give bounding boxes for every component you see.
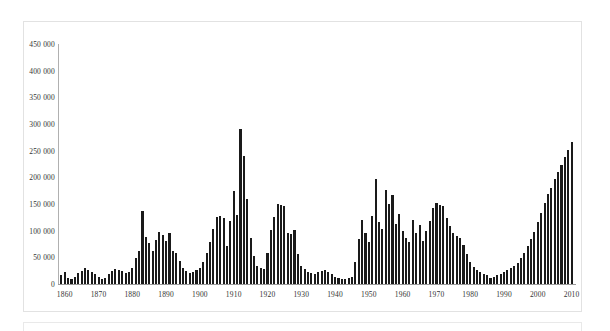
bar	[300, 266, 302, 284]
bar	[118, 270, 120, 284]
y-tick-label: 250 000	[29, 146, 55, 155]
bar	[77, 273, 79, 284]
bar	[128, 272, 130, 284]
bar	[510, 268, 512, 284]
bar	[310, 273, 312, 284]
bar	[236, 215, 238, 284]
bar	[145, 237, 147, 284]
bar	[162, 235, 164, 284]
bar	[520, 258, 522, 284]
x-tick-label: 1860	[57, 290, 73, 299]
bar	[324, 270, 326, 284]
bar	[212, 229, 214, 284]
bar	[189, 273, 191, 284]
bar	[348, 278, 350, 284]
bar	[195, 270, 197, 284]
bar	[219, 216, 221, 284]
bar	[131, 268, 133, 284]
bar	[415, 233, 417, 284]
bar	[506, 270, 508, 284]
bar	[452, 233, 454, 284]
bar	[331, 274, 333, 284]
bar	[81, 271, 83, 284]
bar	[567, 150, 569, 284]
bar	[564, 157, 566, 284]
y-tick-label: 150 000	[29, 200, 55, 209]
bar	[571, 142, 573, 284]
y-tick-label: 0	[51, 280, 55, 289]
bar	[293, 230, 295, 284]
x-tick-label: 1870	[91, 290, 107, 299]
x-tick-label: 1930	[293, 290, 309, 299]
bar	[165, 241, 167, 284]
bar	[432, 208, 434, 284]
bar	[209, 242, 211, 284]
bar	[439, 205, 441, 284]
bar	[344, 279, 346, 284]
bar	[459, 238, 461, 284]
bar	[486, 275, 488, 284]
x-tick-label: 1990	[496, 290, 512, 299]
bar	[337, 278, 339, 284]
bar	[412, 220, 414, 284]
x-tick-label: 1890	[158, 290, 174, 299]
bars-layer	[58, 44, 575, 284]
bar	[354, 262, 356, 284]
bar	[202, 262, 204, 284]
bar	[67, 278, 69, 284]
bar	[391, 195, 393, 284]
x-tick-label: 1970	[429, 290, 445, 299]
bar	[256, 266, 258, 284]
bar	[469, 262, 471, 284]
bar	[273, 217, 275, 284]
bar	[297, 254, 299, 284]
bar	[223, 218, 225, 284]
bar	[557, 172, 559, 284]
bar	[476, 270, 478, 284]
x-tick-label: 1960	[395, 290, 411, 299]
bar	[168, 233, 170, 284]
bar	[533, 232, 535, 284]
bar	[307, 272, 309, 284]
bar	[560, 165, 562, 284]
bar	[304, 269, 306, 284]
bar	[483, 274, 485, 284]
y-tick-label: 450 000	[29, 40, 55, 49]
bar	[544, 203, 546, 284]
bar	[361, 220, 363, 284]
bar	[172, 251, 174, 284]
bar	[554, 179, 556, 284]
bar	[253, 256, 255, 284]
bar	[479, 272, 481, 284]
y-tick-label: 200 000	[29, 173, 55, 182]
x-axis-line	[58, 284, 576, 285]
x-tick-label: 2000	[530, 290, 546, 299]
bar	[523, 253, 525, 284]
bar	[70, 279, 72, 284]
y-tick-label: 100 000	[29, 226, 55, 235]
plot-area	[58, 44, 575, 284]
bar	[185, 271, 187, 284]
bar	[547, 194, 549, 284]
x-tick-label: 1980	[462, 290, 478, 299]
bar	[493, 277, 495, 284]
bar	[64, 272, 66, 284]
bar	[398, 214, 400, 284]
bar	[375, 179, 377, 284]
bar	[371, 216, 373, 284]
bar	[385, 190, 387, 284]
bar	[239, 129, 241, 284]
y-tick-label: 400 000	[29, 66, 55, 75]
bar	[98, 277, 100, 284]
bar	[158, 232, 160, 284]
bar	[550, 188, 552, 284]
bar	[263, 269, 265, 284]
bar	[84, 268, 86, 284]
bar	[425, 231, 427, 284]
bar	[233, 191, 235, 284]
bar	[206, 253, 208, 284]
bar	[141, 211, 143, 284]
bar	[442, 206, 444, 284]
bar	[283, 206, 285, 284]
secondary-panel	[23, 322, 582, 331]
